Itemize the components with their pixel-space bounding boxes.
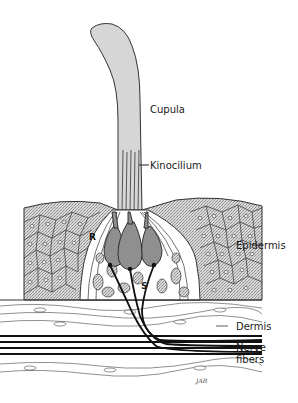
label-nerve-fibers-line1: Nerve [236, 342, 266, 353]
label-supporting-cell: S [141, 281, 147, 291]
label-cupula: Cupula [150, 104, 185, 115]
artist-signature: JAR [196, 377, 207, 384]
neuromast-diagram: Cupula Kinocilium Epidermis Dermis Nerve… [0, 0, 298, 403]
label-nerve-fibers-line2: fibers [236, 354, 264, 365]
label-dermis: Dermis [236, 321, 272, 332]
label-kinocilium: Kinocilium [150, 160, 202, 171]
label-receptor-cell: R [89, 232, 96, 242]
label-epidermis: Epidermis [236, 240, 286, 251]
